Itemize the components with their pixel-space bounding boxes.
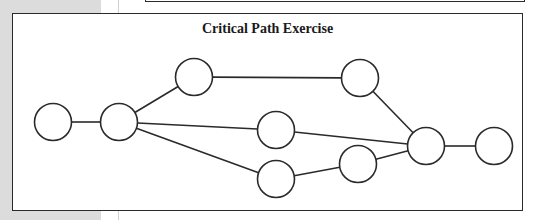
edge-n4-n8 xyxy=(373,91,413,132)
edge-n3-n4 xyxy=(212,77,341,78)
node-n3 xyxy=(176,59,213,96)
edge-n2-n3 xyxy=(135,87,178,113)
diagram-title: Critical Path Exercise xyxy=(0,21,536,37)
node-n6 xyxy=(258,161,295,198)
edge-n5-n8 xyxy=(294,132,407,144)
node-n1 xyxy=(35,104,72,141)
edge-n6-n7 xyxy=(294,167,340,175)
node-n9 xyxy=(476,128,513,165)
node-n8 xyxy=(408,128,445,165)
edge-n7-n8 xyxy=(376,151,408,160)
nodes xyxy=(35,59,513,198)
node-n4 xyxy=(342,60,379,97)
edge-n2-n6 xyxy=(136,128,258,172)
node-n2 xyxy=(101,104,138,141)
node-n7 xyxy=(340,146,377,183)
edge-n2-n5 xyxy=(137,123,257,129)
node-n5 xyxy=(258,112,295,149)
